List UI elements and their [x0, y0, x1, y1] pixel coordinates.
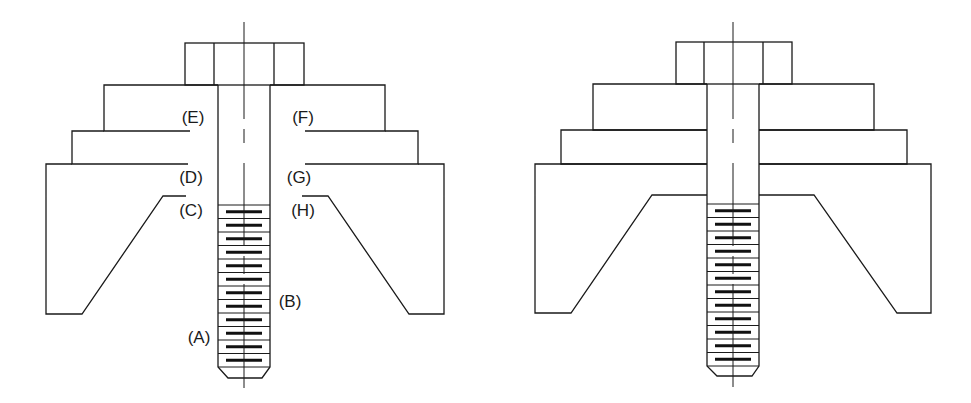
label-c: (C)	[179, 201, 203, 220]
base-block-left	[535, 164, 707, 313]
plate-right	[759, 130, 907, 164]
washer-right	[270, 85, 385, 131]
unlabeled-assembly-view	[535, 22, 931, 387]
label-h: (H)	[291, 201, 315, 220]
plate-left	[561, 130, 707, 164]
bolt-head	[676, 42, 792, 84]
plate-left	[72, 131, 188, 164]
washer-right	[759, 84, 874, 130]
label-f: (F)	[292, 108, 314, 127]
washer-left	[593, 84, 707, 130]
label-a: (A)	[188, 328, 211, 347]
base-block-right	[302, 164, 444, 314]
label-b: (B)	[279, 292, 302, 311]
base-block-right	[759, 164, 931, 313]
labeled-assembly-view: (E)(F)(D)(G)(C)(H)(B)(A)	[46, 22, 444, 388]
plate-right	[305, 131, 418, 164]
bolted-joint-diagram: (E)(F)(D)(G)(C)(H)(B)(A)	[0, 0, 971, 403]
label-d: (D)	[179, 168, 203, 187]
base-block-left	[46, 164, 186, 314]
label-e: (E)	[182, 108, 205, 127]
label-g: (G)	[287, 168, 312, 187]
